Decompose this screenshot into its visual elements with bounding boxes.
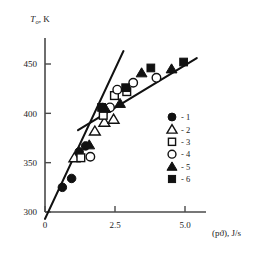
legend-marker-3 bbox=[168, 138, 175, 145]
trend-lines-group bbox=[45, 51, 197, 219]
data-point-filled-square bbox=[122, 84, 130, 92]
x-tick-label: 0 bbox=[43, 220, 48, 230]
data-point-open-circle bbox=[129, 78, 138, 87]
data-point-open-circle bbox=[113, 85, 122, 94]
scatter-plot-canvas: 30035040045002.55.0 - 1- 2- 3- 4- 5- 6 T… bbox=[0, 0, 266, 258]
legend-label-6: - 6 bbox=[181, 174, 190, 184]
data-points-group bbox=[58, 58, 187, 191]
x-axis-label: (pϑ), J/s bbox=[212, 228, 241, 238]
y-tick-label: 400 bbox=[24, 109, 38, 119]
chart-legend: - 1- 2- 3- 4- 5- 6 bbox=[167, 112, 191, 184]
data-point-filled-circle bbox=[58, 183, 67, 192]
y-tick-label: 350 bbox=[24, 158, 38, 168]
chart-figure: 30035040045002.55.0 - 1- 2- 3- 4- 5- 6 T… bbox=[0, 0, 266, 258]
legend-marker-2 bbox=[167, 125, 177, 133]
legend-label-3: - 3 bbox=[181, 137, 190, 147]
shallow-trend-line bbox=[78, 58, 197, 130]
data-point-filled-circle bbox=[67, 174, 76, 183]
legend-marker-5 bbox=[167, 162, 177, 170]
data-point-filled-triangle bbox=[166, 64, 177, 73]
legend-marker-4 bbox=[168, 150, 176, 158]
x-tick-label: 5.0 bbox=[179, 220, 191, 230]
y-axis-label: To, K bbox=[30, 14, 50, 25]
y-tick-label: 300 bbox=[24, 207, 38, 217]
data-point-filled-square bbox=[98, 104, 106, 112]
data-point-open-circle bbox=[86, 152, 95, 161]
legend-label-1: - 1 bbox=[181, 112, 190, 122]
data-point-filled-square bbox=[180, 58, 188, 66]
y-tick-label: 450 bbox=[24, 59, 38, 69]
data-point-open-triangle bbox=[108, 114, 119, 123]
data-point-filled-triangle bbox=[136, 68, 147, 77]
data-point-open-circle bbox=[152, 74, 161, 83]
data-point-open-triangle bbox=[89, 126, 100, 135]
legend-label-5: - 5 bbox=[181, 162, 190, 172]
legend-marker-1 bbox=[168, 113, 176, 121]
legend-marker-6 bbox=[168, 175, 175, 182]
data-point-filled-square bbox=[147, 64, 155, 72]
legend-label-4: - 4 bbox=[181, 149, 191, 159]
axis-labels-group: To, K(pϑ), J/s bbox=[30, 14, 241, 238]
steep-trend-line bbox=[45, 51, 123, 219]
data-point-open-square bbox=[77, 154, 85, 162]
x-tick-label: 2.5 bbox=[109, 220, 121, 230]
legend-label-2: - 2 bbox=[181, 125, 190, 135]
